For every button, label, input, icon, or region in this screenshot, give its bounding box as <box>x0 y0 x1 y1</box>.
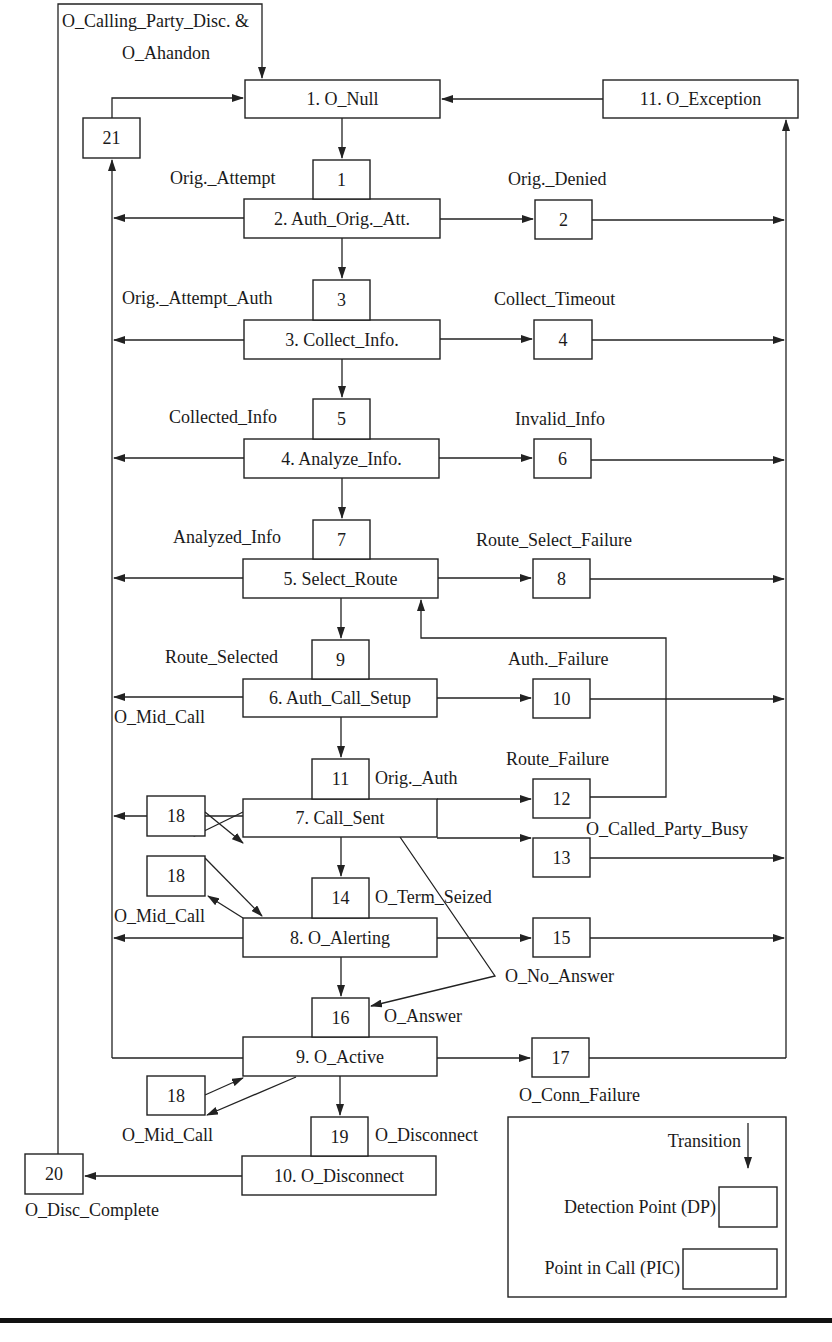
lbl-called-party-busy: O_Called_Party_Busy <box>586 819 748 839</box>
dp-number: 2 <box>559 210 568 230</box>
lbl-o-mid-call-3: O_Mid_Call <box>122 1125 213 1145</box>
lbl-orig-attempt: Orig._Attempt <box>170 168 276 188</box>
dp-dp13: 13 <box>533 838 590 877</box>
dp-dp18a: 18 <box>147 796 205 836</box>
dp-dp3: 3 <box>313 280 370 320</box>
page-bottom-rule <box>0 1318 832 1323</box>
dp-dp2: 2 <box>535 200 592 239</box>
pic-label: 7. Call_Sent <box>296 808 385 828</box>
dp-number: 1 <box>337 170 346 190</box>
lbl-conn-failure: O_Conn_Failure <box>519 1085 640 1105</box>
lbl-o-disconnect: O_Disconnect <box>375 1125 478 1145</box>
lbl-route-select-failure: Route_Select_Failure <box>476 530 632 550</box>
dp-number: 14 <box>332 888 350 908</box>
dp-dp18b: 18 <box>147 856 205 896</box>
lbl-term-seized: O_Term_Seized <box>375 887 492 907</box>
dp-dp17: 17 <box>532 1038 589 1077</box>
dp-number: 7 <box>337 530 346 550</box>
lbl-collected-info: Collected_Info <box>169 407 277 427</box>
legend-pic-symbol <box>683 1249 777 1289</box>
pic-pic8: 8. O_Alerting <box>243 918 437 957</box>
pic-pic6: 6. Auth_Call_Setup <box>243 679 437 717</box>
pic-pic7: 7. Call_Sent <box>243 799 437 837</box>
dp-dp19: 19 <box>311 1117 368 1156</box>
pic-label: 10. O_Disconnect <box>274 1166 404 1186</box>
lbl-collect-timeout: Collect_Timeout <box>494 289 615 309</box>
dp-number: 8 <box>557 569 566 589</box>
pic-label: 5. Select_Route <box>284 569 398 589</box>
dp-number: 15 <box>553 928 571 948</box>
dp-dp16: 16 <box>312 998 369 1037</box>
pic-label: 11. O_Exception <box>640 89 761 109</box>
dp-number: 3 <box>337 290 346 310</box>
lbl-o-mid-call-1: O_Mid_Call <box>114 707 205 727</box>
dp-number: 5 <box>337 409 346 429</box>
lbl-orig-auth: Orig._Auth <box>375 768 458 788</box>
legend-pic-label: Point in Call (PIC) <box>544 1258 680 1279</box>
pic-label: 6. Auth_Call_Setup <box>269 688 411 708</box>
pic-pic3: 3. Collect_Info. <box>244 320 440 359</box>
lbl-route-failure: Route_Failure <box>506 749 609 769</box>
dp-number: 18 <box>167 1086 185 1106</box>
lbl-abandon: O_Ahandon <box>122 43 210 63</box>
legend-transition-label: Transition <box>668 1131 741 1151</box>
dp-number: 9 <box>336 650 345 670</box>
dp-dp21: 21 <box>83 118 140 158</box>
dp-dp15: 15 <box>533 918 590 957</box>
dp-dp9: 9 <box>312 640 369 679</box>
legend-dp-label: Detection Point (DP) <box>564 1197 716 1218</box>
pic-label: 8. O_Alerting <box>290 928 390 948</box>
dp-dp14: 14 <box>312 878 369 918</box>
dp-dp7: 7 <box>313 520 370 559</box>
dp-number: 20 <box>45 1164 63 1184</box>
lbl-orig-attempt-auth: Orig._Attempt_Auth <box>122 288 273 308</box>
dp-dp11: 11 <box>312 759 369 799</box>
lbl-route-selected: Route_Selected <box>165 647 278 667</box>
dp-number: 19 <box>331 1127 349 1147</box>
pic-label: 3. Collect_Info. <box>285 330 398 350</box>
dp-dp5: 5 <box>313 399 370 439</box>
dp-number: 18 <box>167 806 185 826</box>
legend-dp-symbol <box>719 1187 777 1227</box>
dp-number: 12 <box>553 789 571 809</box>
dp-dp20: 20 <box>25 1154 83 1194</box>
pic-pic5: 5. Select_Route <box>243 559 438 598</box>
dp-dp8: 8 <box>533 559 590 598</box>
lbl-analyzed-info: Analyzed_Info <box>173 527 281 547</box>
dp-dp18c: 18 <box>147 1076 205 1115</box>
dp-number: 21 <box>103 128 121 148</box>
dp-number: 13 <box>553 848 571 868</box>
pic-pic10: 10. O_Disconnect <box>242 1156 436 1195</box>
pic-pic9: 9. O_Active <box>243 1037 437 1076</box>
dp-number: 17 <box>552 1048 570 1068</box>
dp-number: 11 <box>332 769 349 789</box>
pic-label: 1. O_Null <box>307 89 379 109</box>
legend: Transition Detection Point (DP) Point in… <box>508 1117 786 1297</box>
lbl-orig-denied: Orig._Denied <box>508 169 606 189</box>
dp-dp6: 6 <box>534 439 591 478</box>
pic-pic1: 1. O_Null <box>245 80 440 118</box>
dp-number: 6 <box>558 449 567 469</box>
dp-dp12: 12 <box>533 779 590 818</box>
dp-number: 10 <box>553 689 571 709</box>
lbl-o-answer: O_Answer <box>384 1006 462 1026</box>
pic-pic2: 2. Auth_Orig._Att. <box>244 199 440 238</box>
pic-pic4: 4. Analyze_Info. <box>244 439 439 478</box>
dp-dp10: 10 <box>533 679 590 718</box>
lbl-auth-failure: Auth._Failure <box>508 649 609 669</box>
pic-label: 4. Analyze_Info. <box>281 449 401 469</box>
dp-dp4: 4 <box>534 320 592 359</box>
dp-dp1: 1 <box>313 160 370 199</box>
pic-pic11: 11. O_Exception <box>603 80 798 118</box>
lbl-no-answer: O_No_Answer <box>505 966 614 986</box>
lbl-disc-complete: O_Disc_Complete <box>25 1200 159 1220</box>
pic-label: 9. O_Active <box>296 1047 384 1067</box>
dp-number: 4 <box>559 330 568 350</box>
lbl-invalid-info: Invalid_Info <box>515 409 605 429</box>
detection-points: 1234567891011121314151617181818192021 <box>25 118 592 1194</box>
lbl-o-mid-call-2: O_Mid_Call <box>114 906 205 926</box>
dp-number: 16 <box>332 1008 350 1028</box>
dp-number: 18 <box>167 866 185 886</box>
lbl-calling-party-disc: O_Calling_Party_Disc. & <box>62 11 249 31</box>
pic-label: 2. Auth_Orig._Att. <box>274 209 410 229</box>
